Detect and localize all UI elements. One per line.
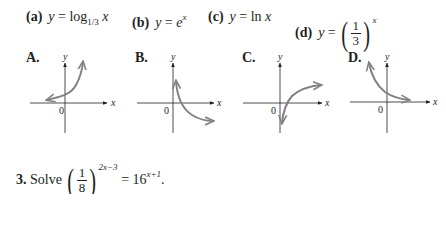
graph-a: x y 0 bbox=[30, 51, 116, 133]
curve-exponential-decreasing bbox=[369, 63, 409, 100]
problem-verb: Solve bbox=[30, 172, 62, 187]
y-axis-label: y bbox=[384, 51, 390, 62]
problem-3: 3. Solve (18)2x−3 = 16x+1. bbox=[16, 157, 165, 194]
x-axis-label: x bbox=[216, 97, 222, 108]
left-paren: ( bbox=[68, 164, 75, 194]
graph-b: x y 0 bbox=[137, 51, 222, 133]
problem-number: 3. bbox=[16, 172, 27, 187]
y-axis-label: y bbox=[170, 51, 176, 62]
x-axis-label: x bbox=[324, 97, 330, 108]
right-exponent: x+1 bbox=[147, 169, 162, 179]
curve-log-increasing bbox=[282, 85, 321, 123]
y-axis-label: y bbox=[277, 51, 283, 62]
curve-log-decreasing bbox=[176, 81, 213, 121]
origin-label: 0 bbox=[378, 104, 383, 115]
fraction: 18 bbox=[77, 166, 88, 194]
x-axis-label: x bbox=[110, 97, 116, 108]
graph-d: x y 0 bbox=[350, 51, 438, 133]
right-paren: ) bbox=[89, 164, 96, 194]
graph-c: x y 0 bbox=[243, 51, 330, 133]
x-axis-label: x bbox=[432, 96, 438, 107]
right-base: 16 bbox=[133, 172, 147, 187]
y-axis-label: y bbox=[62, 51, 68, 62]
left-exponent: 2x−3 bbox=[99, 162, 118, 172]
origin-label: 0 bbox=[59, 105, 64, 116]
origin-label: 0 bbox=[271, 105, 276, 116]
origin-label: 0 bbox=[164, 105, 169, 116]
